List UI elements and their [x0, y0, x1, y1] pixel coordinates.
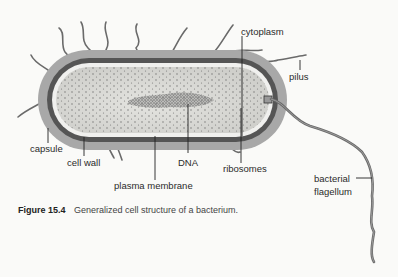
figure-caption: Figure 15.4 Generalized cell structure o…: [18, 205, 238, 215]
label-ribosomes: ribosomes: [223, 163, 267, 174]
label-flagellum-line2: flagellum: [314, 186, 352, 197]
figure-number: Figure 15.4: [18, 205, 66, 215]
label-capsule: capsule: [30, 143, 63, 154]
label-dna: DNA: [178, 157, 198, 168]
label-pilus: pilus: [289, 71, 309, 82]
figure-caption-text: Generalized cell structure of a bacteriu…: [74, 205, 238, 215]
label-flagellum-line1: bacterial: [314, 173, 350, 184]
label-cytoplasm: cytoplasm: [241, 26, 284, 37]
bacterium-illustration: [0, 0, 398, 277]
label-plasma-membrane: plasma membrane: [114, 180, 193, 191]
label-cell-wall: cell wall: [67, 157, 100, 168]
bacterium-diagram: cytoplasm pilus capsule cell wall DNA ri…: [0, 0, 398, 277]
